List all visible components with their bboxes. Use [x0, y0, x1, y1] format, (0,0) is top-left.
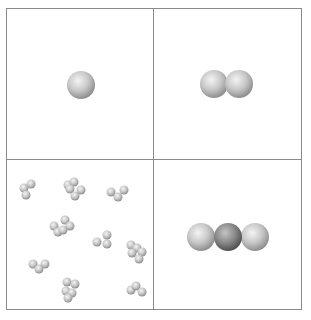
atom-sphere-outer [241, 223, 269, 251]
atom-sphere [200, 70, 228, 98]
molecule [50, 216, 75, 237]
atom-sphere [225, 70, 253, 98]
triatomic-molecule-illustration [154, 160, 301, 309]
molecule [62, 278, 80, 303]
molecule [64, 178, 86, 201]
single-atom-illustration [7, 9, 153, 159]
atom-sphere [67, 71, 95, 99]
diatomic-molecule-illustration [154, 9, 301, 159]
panel-many-molecules [6, 159, 154, 310]
molecule [20, 180, 36, 200]
atom-sphere-outer [187, 223, 215, 251]
molecule [107, 186, 129, 202]
panel-diatomic-molecule [153, 8, 302, 160]
panel-triatomic-molecule [153, 159, 302, 310]
atom-sphere-center [214, 223, 242, 251]
molecule [29, 260, 50, 274]
panel-single-atom [6, 8, 154, 160]
many-molecules-illustration [7, 160, 153, 309]
molecule [127, 241, 147, 264]
molecule [93, 231, 112, 249]
particle-diagram-grid [6, 8, 302, 310]
molecule [127, 282, 147, 297]
